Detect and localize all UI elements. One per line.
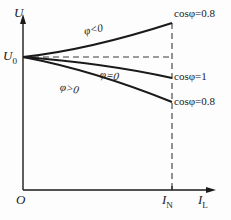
in-tick-label-sub: N [166, 200, 173, 210]
voltage-current-characteristic-figure: U U0 O IN IL φ<0 φ=0 φ>0 cosφ=0.8 cosφ=1… [0, 0, 231, 220]
curve-lagging-power-factor [23, 57, 172, 102]
origin-label: O [16, 193, 25, 206]
in-tick-label: IN [162, 193, 173, 210]
u0-axis-label: U0 [3, 49, 17, 66]
u0-axis-label-sub: 0 [12, 56, 17, 66]
end-label-unity-power-factor: cosφ=1 [174, 71, 207, 82]
x-axis-label-sub: L [202, 200, 208, 210]
end-label-lagging-power-factor: cosφ=0.8 [174, 96, 215, 107]
y-axis-label: U [14, 6, 23, 19]
u0-axis-label-base: U [3, 48, 12, 63]
end-label-leading-power-factor: cosφ=0.8 [174, 8, 215, 19]
x-axis-label: IL [198, 193, 208, 210]
plot-area [0, 0, 231, 220]
